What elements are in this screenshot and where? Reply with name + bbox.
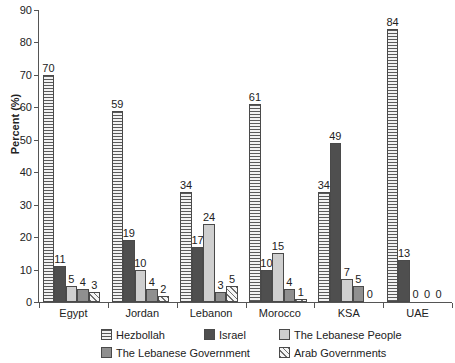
legend-item[interactable]: Arab Governments — [279, 344, 386, 361]
legend-item[interactable]: The Lebanese People — [279, 326, 402, 343]
bar-value-label: 24 — [203, 211, 215, 223]
bar[interactable]: 10 — [261, 270, 273, 302]
bar[interactable]: 4 — [77, 289, 89, 302]
bar-value-label: 70 — [42, 62, 54, 74]
legend-item[interactable]: The Lebanese Government — [101, 344, 250, 361]
bar-rect[interactable] — [284, 289, 296, 302]
bar-rect[interactable] — [89, 292, 101, 302]
bar-rect[interactable] — [192, 247, 204, 302]
bar-value-label: 2 — [160, 283, 166, 295]
legend-label: The Lebanese People — [294, 329, 402, 341]
bar-value-label: 3 — [218, 279, 224, 291]
x-axis-tick-mark — [383, 303, 384, 308]
bar[interactable]: 5 — [66, 286, 78, 302]
bar[interactable]: 0 — [421, 301, 433, 302]
bar-rect[interactable] — [353, 286, 365, 302]
bar-value-label: 5 — [68, 273, 74, 285]
bar-rect[interactable] — [387, 29, 399, 302]
y-axis-tick-label: 50 — [8, 135, 32, 145]
bar[interactable]: 4 — [146, 289, 158, 302]
bar-rect[interactable] — [123, 240, 135, 302]
y-axis-tick-label: 0 — [8, 297, 32, 307]
bar[interactable]: 0 — [364, 301, 376, 302]
y-axis-tick-mark — [34, 172, 39, 173]
bar[interactable]: 59 — [112, 111, 124, 302]
bar[interactable]: 5 — [226, 286, 238, 302]
bar-value-label: 4 — [286, 276, 292, 288]
bar-rect[interactable] — [112, 111, 124, 302]
y-axis-tick-mark — [34, 10, 39, 11]
bar-value-label: 0 — [424, 288, 430, 300]
chart-legend: HezbollahIsraelThe Lebanese PeopleThe Le… — [39, 326, 455, 363]
x-axis-tick-mark — [39, 303, 40, 308]
bar-value-label: 17 — [191, 234, 203, 246]
bar-value-label: 10 — [260, 257, 272, 269]
bar-rect[interactable] — [330, 143, 342, 302]
bar[interactable]: 0 — [410, 301, 422, 302]
y-axis-tick-label: 80 — [8, 37, 32, 47]
bar-rect[interactable] — [249, 104, 261, 302]
bar[interactable]: 5 — [353, 286, 365, 302]
bar-rect[interactable] — [261, 270, 273, 302]
bar[interactable]: 11 — [54, 266, 66, 302]
x-axis-group-label: Morocco — [246, 307, 315, 319]
legend-swatch-icon — [204, 329, 215, 340]
bar[interactable]: 70 — [43, 75, 55, 302]
bar[interactable]: 13 — [398, 260, 410, 302]
x-axis-group-label: Jordan — [108, 307, 177, 319]
bar-value-label: 0 — [413, 288, 419, 300]
bar-rect[interactable] — [226, 286, 238, 302]
bar[interactable]: 10 — [135, 270, 147, 302]
bar[interactable]: 17 — [192, 247, 204, 302]
bar-rect[interactable] — [272, 253, 284, 302]
bar-rect[interactable] — [203, 224, 215, 302]
bar[interactable]: 7 — [341, 279, 353, 302]
bar-group: 61101541 — [249, 10, 307, 302]
bar-value-label: 0 — [367, 288, 373, 300]
bar[interactable]: 49 — [330, 143, 342, 302]
bar-rect[interactable] — [180, 192, 192, 302]
bar-rect[interactable] — [54, 266, 66, 302]
bar[interactable]: 19 — [123, 240, 135, 302]
legend-item[interactable]: Hezbollah — [101, 326, 165, 343]
bar[interactable]: 0 — [433, 301, 445, 302]
bar[interactable]: 24 — [203, 224, 215, 302]
bar-rect[interactable] — [77, 289, 89, 302]
bar-rect[interactable] — [135, 270, 147, 302]
bar-rect[interactable] — [215, 292, 227, 302]
bar-rect[interactable] — [43, 75, 55, 302]
bar-rect[interactable] — [146, 289, 158, 302]
y-axis-tick-label: 10 — [8, 265, 32, 275]
bar[interactable]: 4 — [284, 289, 296, 302]
y-axis-tick-label: 70 — [8, 70, 32, 80]
bar[interactable]: 34 — [180, 192, 192, 302]
bar-rect[interactable] — [341, 279, 353, 302]
bar[interactable]: 34 — [318, 192, 330, 302]
bar-rect[interactable] — [66, 286, 78, 302]
y-axis-tick-label: 40 — [8, 167, 32, 177]
bar[interactable]: 15 — [272, 253, 284, 302]
bar[interactable]: 2 — [158, 296, 170, 302]
x-axis-group-label: UAE — [383, 307, 452, 319]
bar[interactable]: 61 — [249, 104, 261, 302]
bar[interactable]: 3 — [89, 292, 101, 302]
bar[interactable]: 3 — [215, 292, 227, 302]
x-axis-group-label: Egypt — [39, 307, 108, 319]
y-axis-tick-label: 30 — [8, 200, 32, 210]
x-axis-tick-mark — [246, 303, 247, 308]
bar[interactable]: 84 — [387, 29, 399, 302]
bar[interactable]: 1 — [295, 299, 307, 302]
bar-group: 34172435 — [180, 10, 238, 302]
bar-rect[interactable] — [318, 192, 330, 302]
legend-label: Arab Governments — [294, 347, 386, 359]
y-axis-tick-mark — [34, 140, 39, 141]
legend-item[interactable]: Israel — [204, 326, 246, 343]
legend-swatch-icon — [101, 347, 112, 358]
x-axis-group-label: KSA — [314, 307, 383, 319]
bar-rect[interactable] — [158, 296, 170, 302]
bar-rect[interactable] — [398, 260, 410, 302]
bar-value-label: 5 — [355, 273, 361, 285]
y-axis-tick-label: 20 — [8, 232, 32, 242]
bar-rect[interactable] — [295, 299, 307, 302]
legend-label: The Lebanese Government — [116, 347, 250, 359]
